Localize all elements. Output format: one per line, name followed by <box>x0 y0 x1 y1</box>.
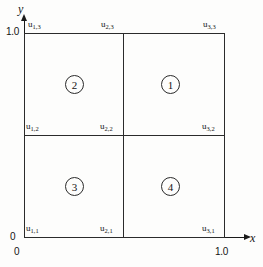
x-tick-max: 1.0 <box>215 246 228 257</box>
node-label-u33: u3,3 <box>203 19 216 30</box>
node-label-u21: u2,1 <box>100 223 113 234</box>
element-circle-1-label: 1 <box>168 79 174 91</box>
node-label-u12: u1,2 <box>26 121 39 132</box>
y-axis-label: y <box>18 2 23 17</box>
y-tick-origin: 0 <box>10 231 15 242</box>
element-circle-4: 4 <box>161 177 180 196</box>
mesh-line-bottom <box>24 237 225 238</box>
mesh-line-left <box>24 33 25 238</box>
element-circle-3: 3 <box>65 177 84 196</box>
element-circle-3-label: 3 <box>72 181 78 193</box>
mesh-line-top <box>24 33 225 34</box>
mesh-figure: y x 1.0 0 0 1.0 u1,3 u2,3 u3,3 u1,2 u2,2… <box>0 0 263 267</box>
element-circle-2: 2 <box>65 75 84 94</box>
node-label-u22: u2,2 <box>100 121 113 132</box>
node-label-u13: u1,3 <box>28 19 41 30</box>
x-tick-origin: 0 <box>14 246 19 257</box>
node-label-u31: u3,1 <box>202 223 215 234</box>
mesh-line-middle-vertical <box>123 33 124 238</box>
element-circle-2-label: 2 <box>72 79 78 91</box>
element-circle-4-label: 4 <box>168 181 174 193</box>
node-label-u11: u1,1 <box>26 223 39 234</box>
element-circle-1: 1 <box>161 75 180 94</box>
node-label-u23: u2,3 <box>101 19 114 30</box>
mesh-line-right <box>224 33 225 238</box>
node-label-u32: u3,2 <box>202 121 215 132</box>
x-axis-label: x <box>250 231 255 246</box>
mesh-line-middle-horizontal <box>24 135 225 136</box>
y-tick-max: 1.0 <box>6 26 19 37</box>
